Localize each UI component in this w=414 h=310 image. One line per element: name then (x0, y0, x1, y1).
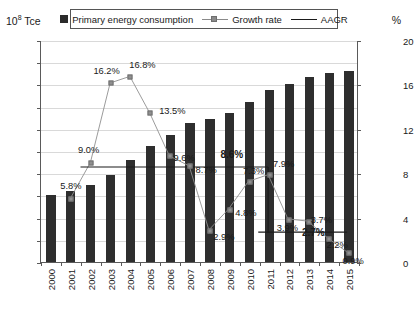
right-axis-tick-label: 20 (403, 36, 414, 47)
right-axis-tick-mark (357, 174, 361, 175)
x-axis-label: 2002 (86, 269, 97, 290)
x-axis-tick-mark (140, 262, 141, 266)
x-axis-tick-mark (260, 262, 261, 266)
right-axis-tick-mark (357, 130, 361, 131)
data-label: 7.9% (273, 159, 294, 169)
x-axis-label: 2005 (145, 269, 156, 290)
x-axis-label: 2015 (344, 269, 355, 290)
x-axis-tick-mark (41, 262, 42, 266)
data-label: 4.8% (235, 208, 256, 218)
data-label: 2.2% (327, 240, 348, 250)
left-axis-unit-label: 108 Tce (6, 14, 41, 27)
left-axis-tick-mark (37, 41, 41, 42)
data-point-marker (168, 154, 173, 159)
data-point-marker (287, 217, 292, 222)
left-axis-tick-mark (37, 196, 41, 197)
x-axis-tick-mark (81, 262, 82, 266)
x-axis-label: 2010 (245, 269, 256, 290)
legend-label-growth-rate: Growth rate (232, 14, 282, 25)
data-point-marker (247, 179, 252, 184)
legend-item-growth-rate: Growth rate (202, 14, 282, 25)
plain-line-icon (291, 15, 317, 23)
x-axis-tick-mark (339, 262, 340, 266)
legend-label-primary-energy-consumption: Primary energy consumption (72, 14, 193, 25)
right-axis-tick-label: 0 (403, 258, 408, 269)
x-axis-tick-mark (299, 262, 300, 266)
data-label: 8.7% (195, 165, 216, 175)
x-axis-label: 2000 (46, 269, 57, 290)
right-axis-tick-mark (357, 41, 361, 42)
right-axis-tick-mark (357, 219, 361, 220)
x-axis-tick-mark (200, 262, 201, 266)
legend-label-aagr: AAGR (321, 14, 348, 25)
x-axis-label: 2014 (324, 269, 335, 290)
x-axis-tick-mark (319, 262, 320, 266)
line-marker-icon (202, 15, 228, 23)
x-axis-tick-mark (280, 262, 281, 266)
data-label: 16.2% (93, 66, 119, 76)
data-label: 9.0% (78, 145, 99, 155)
data-label: 13.5% (159, 106, 185, 116)
x-axis-tick-mark (160, 262, 161, 266)
data-label: 0.9% (342, 256, 363, 266)
data-label: 3.7% (311, 215, 332, 225)
x-axis-label: 2006 (165, 269, 176, 290)
x-axis-label: 2009 (225, 269, 236, 290)
x-axis-tick-mark (121, 262, 122, 266)
left-axis-tick-mark (37, 152, 41, 153)
right-axis-tick-label: 12 (403, 124, 414, 135)
x-axis-label: 2012 (284, 269, 295, 290)
chart-legend: Primary energy consumption Growth rate A… (70, 9, 338, 29)
x-axis-label: 2011 (265, 269, 276, 289)
aagr-label: 2.7% (302, 227, 325, 238)
x-axis-label: 2004 (125, 269, 136, 290)
left-axis-tick-mark (37, 241, 41, 242)
left-axis-tick-mark (37, 85, 41, 86)
right-axis-tick-mark (357, 85, 361, 86)
data-point-marker (207, 228, 212, 233)
x-axis-tick-mark (101, 262, 102, 266)
data-point-marker (148, 111, 153, 116)
x-axis-label: 2007 (185, 269, 196, 290)
data-label: 9.6% (174, 153, 195, 163)
left-axis-tick-mark (37, 130, 41, 131)
data-point-marker (188, 164, 193, 169)
data-point-marker (267, 173, 272, 178)
x-axis-label: 2013 (304, 269, 315, 290)
data-point-marker (347, 251, 352, 256)
aagr-label: 8.6% (220, 148, 243, 159)
data-label: 3.9% (277, 223, 298, 233)
left-axis-tick-mark (37, 108, 41, 109)
data-label: 16.8% (129, 60, 155, 70)
right-axis-unit-label: % (392, 14, 401, 26)
x-axis-tick-mark (220, 262, 221, 266)
left-axis-tick-mark (37, 63, 41, 64)
x-axis-tick-mark (240, 262, 241, 266)
right-axis-tick-label: 8 (403, 169, 408, 180)
data-label: 2.9% (213, 232, 234, 242)
legend-item-primary-energy-consumption: Primary energy consumption (60, 14, 193, 25)
right-axis-tick-label: 4 (403, 213, 408, 224)
x-axis-label: 2001 (66, 269, 77, 290)
data-point-marker (227, 207, 232, 212)
data-point-marker (68, 196, 73, 201)
data-label: 7.3% (243, 166, 264, 176)
plot-area: 5.8%9.0%16.2%16.8%13.5%9.6%8.7%2.9%4.8%7… (40, 41, 358, 263)
x-axis-label: 2003 (106, 269, 117, 290)
left-axis-tick-mark (37, 219, 41, 220)
right-axis-tick-label: 16 (403, 80, 414, 91)
data-point-marker (128, 74, 133, 79)
left-axis-tick-mark (37, 174, 41, 175)
legend-item-aagr: AAGR (291, 14, 348, 25)
x-axis-label: 2008 (205, 269, 216, 290)
data-point-marker (108, 81, 113, 86)
x-axis-tick-mark (359, 262, 360, 266)
data-point-marker (88, 161, 93, 166)
data-label: 5.8% (60, 181, 81, 191)
bar-swatch-icon (60, 15, 68, 23)
x-axis-tick-mark (61, 262, 62, 266)
x-axis-tick-mark (180, 262, 181, 266)
